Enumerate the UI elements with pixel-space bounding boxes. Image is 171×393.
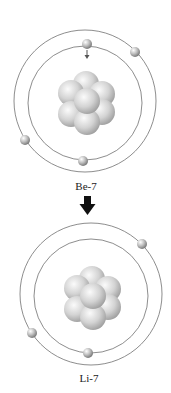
nucleus — [58, 71, 115, 135]
li7-label: Li-7 — [59, 372, 119, 384]
electron — [82, 39, 92, 49]
nucleus — [64, 266, 121, 330]
electron — [130, 47, 140, 57]
be7-atom — [14, 30, 156, 172]
li7-atom — [20, 223, 162, 365]
electron — [137, 239, 147, 249]
be7-label: Be-7 — [56, 180, 116, 192]
electron — [27, 328, 37, 338]
electron-capture-arrow-icon — [85, 50, 90, 59]
electron — [78, 156, 88, 166]
electron-capture-diagram — [0, 0, 171, 393]
electron — [20, 135, 30, 145]
electron — [83, 348, 93, 358]
down-arrow-icon — [80, 196, 96, 215]
